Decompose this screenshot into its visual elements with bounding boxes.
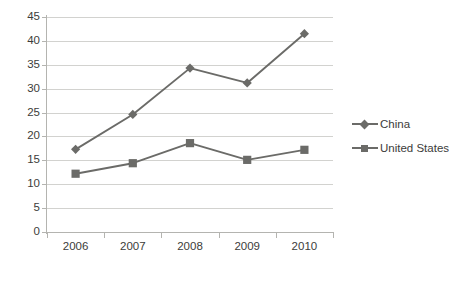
legend-square-marker-icon bbox=[352, 142, 378, 154]
y-axis-tick-label: 5 bbox=[4, 202, 40, 213]
legend-label: China bbox=[378, 118, 410, 130]
y-tick-mark bbox=[42, 41, 47, 42]
y-tick-mark bbox=[42, 184, 47, 185]
data-point-square-marker bbox=[300, 146, 308, 154]
y-tick-mark bbox=[42, 65, 47, 66]
y-axis-tick-label: 0 bbox=[4, 226, 40, 237]
y-axis-tick-label: 40 bbox=[4, 35, 40, 46]
y-axis-tick-label: 35 bbox=[4, 59, 40, 70]
data-point-square-marker bbox=[243, 156, 251, 164]
series-line bbox=[76, 143, 305, 174]
legend-marker bbox=[361, 145, 368, 152]
y-axis-line bbox=[46, 15, 47, 234]
legend-item[interactable]: United States bbox=[352, 142, 449, 154]
series-layer bbox=[47, 17, 333, 232]
x-axis-tick-label: 2006 bbox=[63, 240, 89, 252]
y-axis-tick-label: 10 bbox=[4, 178, 40, 189]
y-axis-tick-label: 45 bbox=[4, 11, 40, 22]
data-point-square-marker bbox=[186, 139, 194, 147]
y-tick-mark bbox=[42, 208, 47, 209]
legend: ChinaUnited States bbox=[352, 118, 449, 154]
y-tick-mark bbox=[42, 160, 47, 161]
x-tick-mark bbox=[333, 233, 334, 238]
y-tick-mark bbox=[42, 113, 47, 114]
y-axis-tick-label: 25 bbox=[4, 107, 40, 118]
y-axis-tick-label: 30 bbox=[4, 83, 40, 94]
x-tick-mark bbox=[47, 233, 48, 238]
plot-area bbox=[47, 17, 333, 232]
y-tick-mark bbox=[42, 17, 47, 18]
data-point-square-marker bbox=[72, 170, 80, 178]
legend-label: United States bbox=[378, 142, 449, 154]
data-point-square-marker bbox=[129, 159, 137, 167]
series-line bbox=[76, 34, 305, 150]
x-axis-tick-label: 2009 bbox=[234, 240, 260, 252]
x-axis-tick-label: 2008 bbox=[177, 240, 203, 252]
x-tick-mark bbox=[104, 233, 105, 238]
legend-marker bbox=[360, 120, 370, 130]
x-axis-line bbox=[47, 232, 334, 233]
y-axis-tick-label: 20 bbox=[4, 130, 40, 141]
data-point-diamond-marker bbox=[71, 145, 80, 154]
x-axis-tick-label: 2007 bbox=[120, 240, 146, 252]
y-tick-mark bbox=[42, 89, 47, 90]
y-axis-labels: 051015202530354045 bbox=[0, 0, 40, 285]
x-tick-mark bbox=[161, 233, 162, 238]
x-tick-mark bbox=[276, 233, 277, 238]
x-axis-tick-label: 2010 bbox=[292, 240, 318, 252]
y-axis-tick-label: 15 bbox=[4, 154, 40, 165]
line-chart: 051015202530354045 20062007200820092010 … bbox=[0, 0, 464, 285]
y-tick-mark bbox=[42, 136, 47, 137]
legend-diamond-marker-icon bbox=[352, 118, 378, 130]
x-tick-mark bbox=[219, 233, 220, 238]
legend-item[interactable]: China bbox=[352, 118, 449, 130]
